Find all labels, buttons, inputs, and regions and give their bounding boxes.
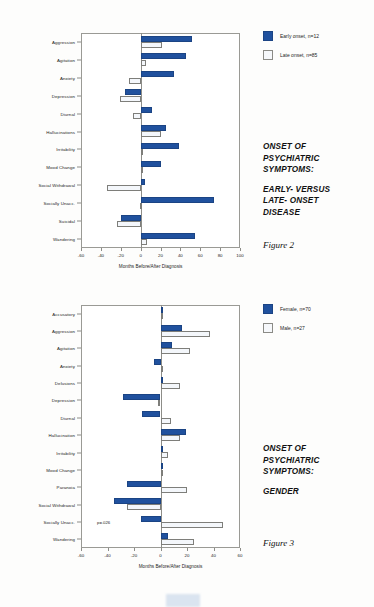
bar-series-1 xyxy=(114,498,160,504)
bar-series-2 xyxy=(161,383,181,389)
category-label: Accusatory xyxy=(52,311,75,316)
category-tick xyxy=(77,435,81,436)
bar-series-2 xyxy=(161,470,164,476)
bar-series-2 xyxy=(161,418,172,424)
bar-series-2 xyxy=(141,167,143,173)
bar-series-1 xyxy=(123,394,160,400)
bar-series-2 xyxy=(141,239,147,245)
x-axis-tick-label: -60 xyxy=(78,253,84,258)
category-tick xyxy=(77,400,81,401)
x-axis-title: Months Before/After Diagnosis xyxy=(139,564,203,569)
category-label: Socially Unacc. xyxy=(43,519,75,524)
caption-line: ONSET OF xyxy=(263,141,368,153)
bar-series-1 xyxy=(141,197,215,203)
bar-series-2 xyxy=(141,42,163,48)
legend-label: Late onset, n=85 xyxy=(280,52,317,58)
category-label: Anxiety xyxy=(60,75,75,80)
legend-swatch-icon xyxy=(263,323,273,333)
bar-series-1 xyxy=(141,107,152,113)
bar-series-1 xyxy=(161,429,186,435)
bar-series-2 xyxy=(161,366,164,372)
figure-3-number: Figure 3 xyxy=(263,538,294,548)
category-label: Wandering xyxy=(53,537,75,542)
category-label: Depression xyxy=(52,398,75,403)
category-tick xyxy=(77,149,81,150)
caption-line: LATE- ONSET xyxy=(263,195,368,207)
category-tick xyxy=(77,469,81,470)
category-label: Irritability xyxy=(56,147,75,152)
bar-series-1 xyxy=(141,179,145,185)
category-label: Anxiety xyxy=(60,363,75,368)
caption-line: SYMPTOMS: xyxy=(263,164,368,176)
legend-swatch-icon xyxy=(263,50,273,60)
category-tick xyxy=(77,41,81,42)
category-label: Diurnal xyxy=(60,111,75,116)
bar-series-2 xyxy=(127,504,160,510)
x-axis-tick-label: 60 xyxy=(198,253,203,258)
category-tick xyxy=(77,487,81,488)
bar-series-2 xyxy=(161,539,194,545)
category-tick xyxy=(77,77,81,78)
bar-series-2 xyxy=(161,331,210,337)
bar-series-1 xyxy=(142,411,161,417)
x-axis-tick xyxy=(200,248,201,251)
caption-line: ONSET OF xyxy=(263,443,368,455)
bar-series-2 xyxy=(129,78,141,84)
category-label: Aggression xyxy=(52,39,75,44)
legend-label: Female, n=70 xyxy=(280,306,311,312)
x-axis-tick xyxy=(121,248,122,251)
category-label: Mood Change xyxy=(46,165,75,170)
legend-label: Male, n=27 xyxy=(280,325,305,331)
bar-series-1 xyxy=(127,481,160,487)
category-tick xyxy=(77,239,81,240)
category-tick xyxy=(77,185,81,186)
category-tick xyxy=(77,521,81,522)
caption-line: EARLY- VERSUS xyxy=(263,184,368,196)
category-tick xyxy=(77,452,81,453)
bar-series-2 xyxy=(161,487,188,493)
x-axis-tick-label: 0 xyxy=(139,253,141,258)
category-label: Suicidal xyxy=(59,219,75,224)
x-axis-tick-label: 20 xyxy=(158,253,163,258)
bar-series-2 xyxy=(140,203,142,209)
x-axis-tick-label: 60 xyxy=(238,553,243,558)
bar-series-1 xyxy=(161,325,182,331)
category-tick xyxy=(77,113,81,114)
x-axis-tick xyxy=(108,548,109,551)
legend-swatch-icon xyxy=(263,304,273,314)
legend-label: Early onset, n=12 xyxy=(280,33,319,39)
bar-series-2 xyxy=(161,348,190,354)
category-tick xyxy=(77,365,81,366)
p-value-annotation: p=.026 xyxy=(97,520,110,525)
x-axis-tick-label: 40 xyxy=(178,253,183,258)
category-label: Agitation xyxy=(57,346,75,351)
category-label: Mood Change xyxy=(46,467,75,472)
category-tick xyxy=(77,203,81,204)
bar-series-2 xyxy=(158,400,161,406)
category-label: Social Withdrawal xyxy=(38,502,75,507)
x-axis-tick-label: 0 xyxy=(159,553,161,558)
bar-series-2 xyxy=(161,522,223,528)
category-tick xyxy=(77,95,81,96)
category-label: Aggression xyxy=(52,329,75,334)
category-label: Agitation xyxy=(57,57,75,62)
chart-plot-area-figure-3: AccusatoryAggressionAgitationAnxietyDelu… xyxy=(81,305,240,548)
figure-early-versus-late-onset: AggressionAgitationAnxietyDepressionDiur… xyxy=(0,0,374,300)
x-axis-tick xyxy=(101,248,102,251)
x-axis-tick xyxy=(161,548,162,551)
bar-series-1 xyxy=(161,533,169,539)
x-axis-tick-label: 100 xyxy=(236,253,243,258)
figure-gender: AccusatoryAggressionAgitationAnxietyDelu… xyxy=(0,295,374,607)
figure-3-caption: ONSET OF PSYCHIATRIC SYMPTOMS: GENDER xyxy=(263,443,368,497)
category-tick xyxy=(77,131,81,132)
category-label: Delusions xyxy=(55,381,75,386)
x-axis-tick-label: -20 xyxy=(131,553,137,558)
bar-series-1 xyxy=(161,446,164,452)
bar-series-1 xyxy=(141,516,161,522)
bar-series-1 xyxy=(154,359,161,365)
x-axis-tick xyxy=(141,248,142,251)
category-tick xyxy=(77,331,81,332)
category-label: Depression xyxy=(52,93,75,98)
x-axis-tick xyxy=(187,548,188,551)
category-tick xyxy=(77,221,81,222)
